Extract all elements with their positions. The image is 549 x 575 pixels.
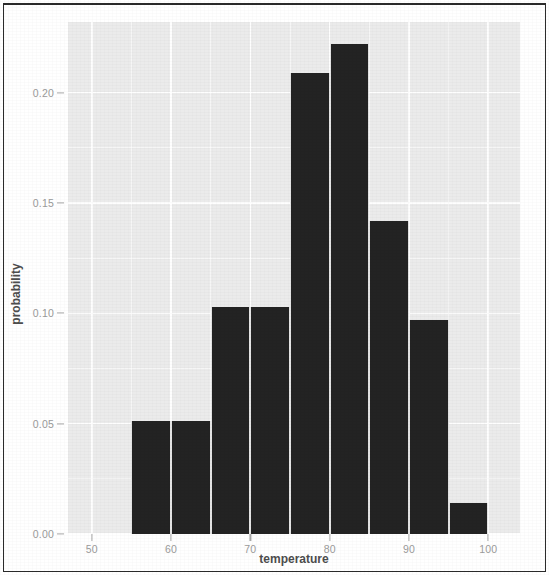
x-tick-mark (408, 534, 409, 541)
histogram-bar (250, 307, 290, 534)
histogram-bar (171, 421, 211, 534)
y-tick-mark (57, 313, 64, 314)
x-tick-mark (170, 534, 171, 541)
y-tick-label: 0.15 (33, 197, 54, 209)
x-tick-mark (250, 534, 251, 541)
y-axis-title: probability (8, 38, 24, 550)
y-tick-mark (57, 202, 64, 203)
y-tick-mark (57, 92, 64, 93)
histogram-bar (369, 221, 409, 534)
y-tick-label: 0.00 (33, 528, 54, 540)
histogram-bar (211, 307, 251, 534)
x-gridline-50 (91, 22, 93, 534)
x-tick-mark (329, 534, 330, 541)
x-tick-mark (91, 534, 92, 541)
x-tick-mark (488, 534, 489, 541)
y-tick-label: 0.10 (33, 307, 54, 319)
y-tick-mark (57, 423, 64, 424)
histogram-bar (449, 503, 489, 534)
y-tick-label: 0.05 (33, 418, 54, 430)
y-tick-label: 0.20 (33, 87, 54, 99)
histogram-bar (409, 320, 449, 534)
plot-panel (68, 22, 520, 534)
x-gridline-100 (487, 22, 489, 534)
histogram-bar (290, 73, 330, 534)
histogram-bar (330, 44, 370, 534)
histogram-bar (131, 421, 171, 534)
x-axis-title: temperature (68, 552, 520, 566)
y-tick-mark (57, 533, 64, 534)
histogram-figure: 0.000.050.100.150.20 probability 5060708… (0, 0, 549, 575)
